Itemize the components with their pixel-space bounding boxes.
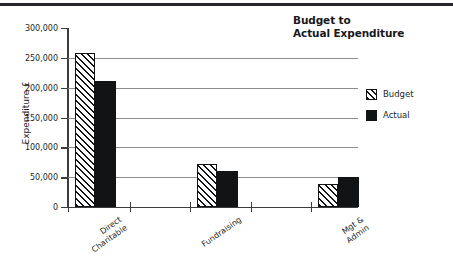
y-tick-label-300000: 300,000 bbox=[0, 24, 58, 33]
plot-area bbox=[68, 28, 358, 207]
bar-budget-mgt-admin bbox=[318, 184, 338, 207]
chart-title-line-1: Budget to bbox=[293, 14, 453, 27]
bar-budget-direct-charitable bbox=[75, 53, 95, 207]
bar-actual-fundraising bbox=[217, 171, 238, 207]
y-tick-label-0: 0 bbox=[0, 203, 58, 212]
legend-label-actual: Actual bbox=[383, 110, 410, 120]
bar-budget-fundraising bbox=[197, 164, 217, 207]
bar-actual-mgt-admin bbox=[338, 177, 359, 207]
x-category-label-mgt-admin: Mgt & Admin bbox=[255, 215, 371, 266]
legend-item-actual: Actual bbox=[366, 107, 414, 123]
y-tick-label-200000: 200,000 bbox=[0, 84, 58, 93]
legend-swatch-actual-icon bbox=[366, 110, 377, 121]
bar-actual-direct-charitable bbox=[95, 81, 116, 207]
y-tick-label-50000: 50,000 bbox=[0, 173, 58, 182]
y-tick-label-100000: 100,000 bbox=[0, 143, 58, 152]
y-tick-label-150000: 150,000 bbox=[0, 114, 58, 123]
legend-item-budget: Budget bbox=[366, 86, 414, 102]
legend-swatch-budget-icon bbox=[366, 89, 377, 100]
x-category-label-direct-charitable: Direct Charitable bbox=[13, 215, 129, 266]
bar-chart: Budget to Actual Expenditure Expenditure… bbox=[0, 0, 453, 266]
y-tick-label-250000: 250,000 bbox=[0, 54, 58, 63]
legend-label-budget: Budget bbox=[383, 89, 414, 99]
chart-legend: Budget Actual bbox=[366, 86, 414, 128]
gridline-250000 bbox=[68, 58, 358, 59]
x-category-label-fundraising: Fundraising bbox=[133, 215, 243, 266]
